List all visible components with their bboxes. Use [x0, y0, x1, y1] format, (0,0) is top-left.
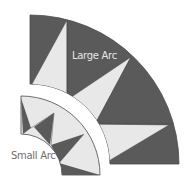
- large-arc-label: Large Arc: [72, 50, 117, 61]
- small-arc-label: Small Arc: [11, 150, 55, 161]
- arc-diagram: Large Arc Small Arc: [0, 0, 186, 183]
